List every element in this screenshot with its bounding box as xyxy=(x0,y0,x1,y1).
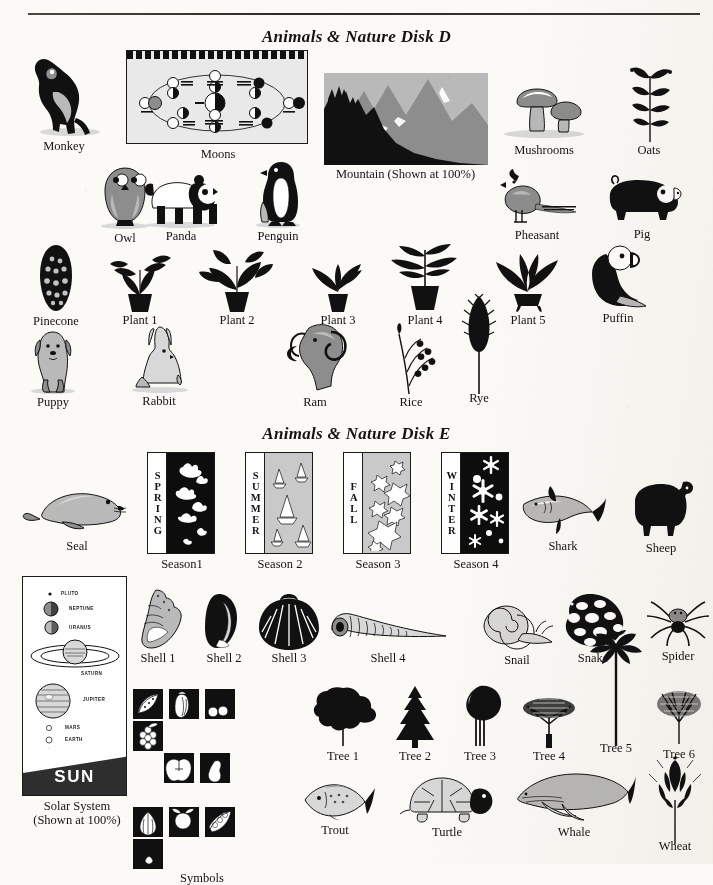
item-rye[interactable]: Rye xyxy=(448,294,510,405)
wheat-icon xyxy=(645,756,705,844)
item-spider[interactable]: Spider xyxy=(645,596,711,663)
caption-plant-2: Plant 2 xyxy=(195,314,279,327)
item-panda[interactable]: Panda xyxy=(135,170,227,243)
season-2-word: SUMMER xyxy=(246,453,265,553)
item-shell-3[interactable]: Shell 3 xyxy=(257,592,321,665)
puffin-icon xyxy=(580,240,656,310)
item-plant-2[interactable]: Plant 2 xyxy=(195,248,279,327)
item-penguin[interactable]: Penguin xyxy=(245,158,311,243)
neptune-icon xyxy=(43,601,59,617)
moon-phases-diagram xyxy=(127,51,307,143)
leaves-art xyxy=(363,453,410,551)
sun-band: SUN xyxy=(23,749,126,795)
caption-season-1: Season1 xyxy=(147,558,217,571)
caption-wheat: Wheat xyxy=(645,840,705,853)
whale-icon xyxy=(512,768,636,824)
item-tree-1[interactable]: Tree 1 xyxy=(310,686,376,763)
tree-1-icon xyxy=(310,686,376,748)
symbol-tile-watermelon xyxy=(133,689,163,719)
caption-solar-system: Solar System (Shown at 100%) xyxy=(22,799,132,828)
item-snail[interactable]: Snail xyxy=(478,602,556,667)
item-ram[interactable]: Ram xyxy=(275,318,355,409)
item-mushrooms[interactable]: Mushrooms xyxy=(495,78,593,157)
tree-4-icon xyxy=(513,694,585,748)
item-pig[interactable]: Pig xyxy=(596,172,688,241)
item-season-3[interactable]: FALL Season 3 xyxy=(343,452,413,571)
item-whale[interactable]: Whale xyxy=(512,768,636,839)
planet-label-pluto: PLUTO xyxy=(61,591,78,596)
item-oats[interactable]: Oats xyxy=(610,60,688,157)
caption-rice: Rice xyxy=(375,396,447,409)
pluto-icon xyxy=(47,591,53,597)
shell-4-icon xyxy=(328,606,448,650)
item-wheat[interactable]: Wheat xyxy=(645,756,705,853)
item-mountain[interactable]: Mountain (Shown at 100%) xyxy=(323,73,488,181)
panda-icon xyxy=(135,170,227,228)
item-pheasant[interactable]: Pheasant xyxy=(492,168,582,242)
item-solar-system[interactable]: PLUTO NEPTUNE URANUS SATURN JUPITER MARS… xyxy=(22,576,132,828)
item-season-1[interactable]: SPRING Season1 xyxy=(147,452,217,571)
item-rabbit[interactable]: Rabbit xyxy=(120,325,198,408)
item-tree-2[interactable]: Tree 2 xyxy=(386,684,444,763)
caption-seal: Seal xyxy=(22,540,132,553)
item-shark[interactable]: Shark xyxy=(520,484,606,553)
symbol-tile-scallions xyxy=(133,839,163,869)
item-shell-2[interactable]: Shell 2 xyxy=(195,592,253,665)
trout-icon xyxy=(295,776,375,822)
item-moons[interactable]: Moons xyxy=(126,50,310,161)
sailboats-art xyxy=(265,453,312,551)
caption-rabbit: Rabbit xyxy=(120,395,198,408)
item-season-2[interactable]: SUMMER Season 2 xyxy=(245,452,315,571)
item-tree-3[interactable]: Tree 3 xyxy=(452,684,508,763)
shell-1-icon xyxy=(128,588,188,650)
season-3-card: FALL xyxy=(343,452,411,554)
season-4-word: WINTER xyxy=(442,453,461,553)
caption-spider: Spider xyxy=(645,650,711,663)
item-monkey[interactable]: Monkey xyxy=(18,46,110,153)
item-trout[interactable]: Trout xyxy=(295,776,375,837)
seal-icon xyxy=(22,480,132,534)
section-title-disk-e: Animals & Nature Disk E xyxy=(0,424,713,444)
planet-label-earth: EARTH xyxy=(65,737,83,742)
item-pinecone[interactable]: Pinecone xyxy=(22,243,90,328)
caption-tree-1: Tree 1 xyxy=(310,750,376,763)
item-plant-1[interactable]: Plant 1 xyxy=(100,248,180,327)
caption-symbols: Symbols xyxy=(132,872,272,885)
tree-2-icon xyxy=(386,684,444,748)
oats-icon xyxy=(610,60,688,142)
caption-monkey: Monkey xyxy=(18,140,110,153)
rice-icon xyxy=(375,322,447,394)
item-plant-3[interactable]: Plant 3 xyxy=(300,252,376,327)
item-tree-5[interactable]: Tree 5 xyxy=(586,630,646,755)
item-sheep[interactable]: Sheep xyxy=(625,478,697,555)
item-symbols[interactable]: Symbols xyxy=(132,688,272,885)
season-2-card: SUMMER xyxy=(245,452,313,554)
pig-icon xyxy=(596,172,688,224)
symbol-tile-pepper xyxy=(169,689,199,719)
caption-season-4: Season 4 xyxy=(441,558,511,571)
caption-shell-2: Shell 2 xyxy=(195,652,253,665)
item-rice[interactable]: Rice xyxy=(375,322,447,409)
caption-season-2: Season 2 xyxy=(245,558,315,571)
jupiter-icon xyxy=(35,683,71,719)
saturn-icon xyxy=(29,637,121,675)
item-turtle[interactable]: Turtle xyxy=(398,770,496,839)
item-puppy[interactable]: Puppy xyxy=(20,328,86,409)
item-season-4[interactable]: WINTER Season 4 xyxy=(441,452,511,571)
item-puffin[interactable]: Puffin xyxy=(580,240,656,325)
earth-icon xyxy=(45,736,53,744)
top-horizontal-rule xyxy=(28,13,700,15)
caption-shark: Shark xyxy=(520,540,606,553)
symbol-tile-radish xyxy=(169,807,199,837)
item-tree-6[interactable]: Tree 6 xyxy=(650,688,708,761)
symbol-tile-grapes xyxy=(133,721,163,751)
pinecone-icon xyxy=(22,243,90,313)
symbols-grid xyxy=(132,688,268,870)
item-shell-4[interactable]: Shell 4 xyxy=(328,606,448,665)
item-seal[interactable]: Seal xyxy=(22,480,132,553)
item-shell-1[interactable]: Shell 1 xyxy=(128,588,188,665)
caption-oats: Oats xyxy=(610,144,688,157)
caption-penguin: Penguin xyxy=(245,230,311,243)
caption-puffin: Puffin xyxy=(580,312,656,325)
item-tree-4[interactable]: Tree 4 xyxy=(513,694,585,763)
